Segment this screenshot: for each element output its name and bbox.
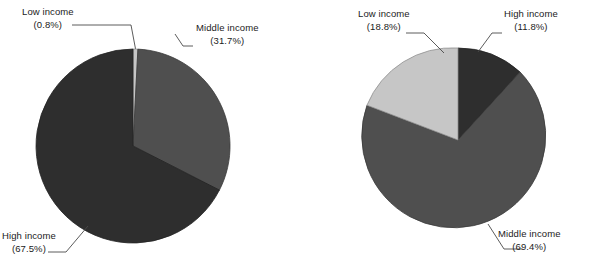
- right-label-middle-income-name: Middle income: [498, 228, 561, 241]
- left-leader-middle-income: [175, 34, 193, 46]
- left-label-middle-income-name: Middle income: [196, 22, 259, 35]
- left-label-middle-income-pct: (31.7%): [196, 35, 259, 48]
- left-leader-low-income: [72, 25, 136, 49]
- right-label-low-income: Low income (18.8%): [358, 8, 410, 33]
- left-label-low-income-pct: (0.8%): [22, 19, 74, 32]
- right-label-low-income-name: Low income: [358, 8, 410, 21]
- left-label-high-income: High income (67.5%): [2, 230, 56, 255]
- right-label-low-income-pct: (18.8%): [358, 21, 410, 34]
- right-label-high-income-pct: (11.8%): [504, 21, 558, 34]
- right-label-middle-income: Middle income (69.4%): [498, 228, 561, 253]
- left-pie-chart-panel: Low income (0.8%) Middle income (31.7%) …: [0, 0, 306, 266]
- right-pie-chart-panel: Low income (18.8%) High income (11.8%) M…: [306, 0, 612, 266]
- right-label-high-income-name: High income: [504, 8, 558, 21]
- right-leader-high-income: [478, 33, 502, 52]
- left-label-middle-income: Middle income (31.7%): [196, 22, 259, 47]
- pie-chart-figure: Low income (0.8%) Middle income (31.7%) …: [0, 0, 612, 266]
- left-pie-graphic: [0, 0, 306, 266]
- right-label-high-income: High income (11.8%): [504, 8, 558, 33]
- left-label-low-income: Low income (0.8%): [22, 6, 74, 31]
- left-label-low-income-name: Low income: [22, 6, 74, 19]
- right-pie-graphic: [306, 0, 612, 266]
- right-label-middle-income-pct: (69.4%): [498, 241, 561, 254]
- left-label-high-income-pct: (67.5%): [2, 243, 56, 256]
- left-label-high-income-name: High income: [2, 230, 56, 243]
